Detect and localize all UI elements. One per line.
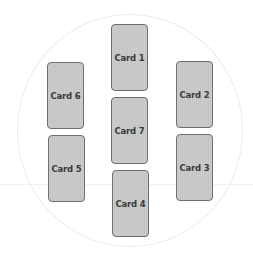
- card-label: Card 1: [115, 53, 145, 63]
- card-4[interactable]: Card 4: [112, 170, 149, 237]
- card-label: Card 5: [52, 164, 82, 174]
- card-label: Card 2: [180, 90, 210, 100]
- card-5[interactable]: Card 5: [48, 135, 85, 202]
- card-label: Card 7: [115, 126, 145, 136]
- card-label: Card 4: [116, 199, 146, 209]
- card-2[interactable]: Card 2: [176, 61, 213, 128]
- card-7[interactable]: Card 7: [111, 97, 148, 164]
- card-label: Card 3: [180, 163, 210, 173]
- card-3[interactable]: Card 3: [176, 134, 213, 201]
- card-6[interactable]: Card 6: [47, 62, 84, 129]
- card-1[interactable]: Card 1: [111, 24, 148, 91]
- card-label: Card 6: [51, 91, 81, 101]
